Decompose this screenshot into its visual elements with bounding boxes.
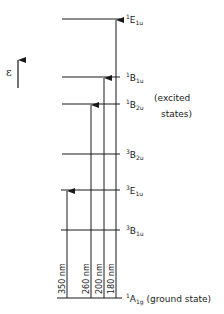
label-3E1u: 3E1u bbox=[126, 183, 143, 199]
label-1E1u: 1E1u bbox=[126, 12, 143, 28]
excited-states-label-line1: (excited bbox=[154, 93, 190, 103]
label-1B1u: 1B1u bbox=[126, 70, 144, 86]
energy-axis-label: ε bbox=[6, 66, 12, 79]
label-1A1g: 1A1g (ground state) bbox=[126, 291, 211, 307]
wavelength-260nm: 260 nm bbox=[83, 263, 91, 294]
wavelength-350nm: 350 nm bbox=[59, 263, 67, 294]
wavelength-200nm: 200 nm bbox=[96, 263, 104, 294]
ground-state-note: (ground state) bbox=[147, 294, 212, 304]
label-3B2u: 3B2u bbox=[126, 147, 144, 163]
transition-arrows bbox=[67, 20, 116, 298]
excited-states-label-line2: states) bbox=[161, 109, 192, 119]
label-1B2u: 1B2u bbox=[126, 97, 144, 113]
label-3B1u: 3B1u bbox=[126, 223, 144, 239]
wavelength-180nm: 180 nm bbox=[108, 263, 116, 294]
